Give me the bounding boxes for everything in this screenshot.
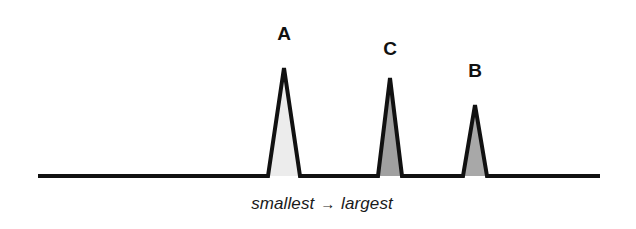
caption-right-text: largest — [341, 194, 393, 213]
peak-label-a: A — [264, 24, 304, 43]
peak-label-b: B — [455, 61, 495, 80]
peak-fill-a — [268, 69, 300, 176]
baseline-trace — [38, 68, 600, 176]
axis-caption: smallest → largest — [0, 194, 636, 214]
right-arrow-icon: → — [319, 195, 336, 212]
peak-label-c: C — [370, 39, 410, 58]
chromatogram-figure: A C B smallest → largest — [0, 0, 636, 229]
caption-left-text: smallest — [251, 194, 314, 213]
